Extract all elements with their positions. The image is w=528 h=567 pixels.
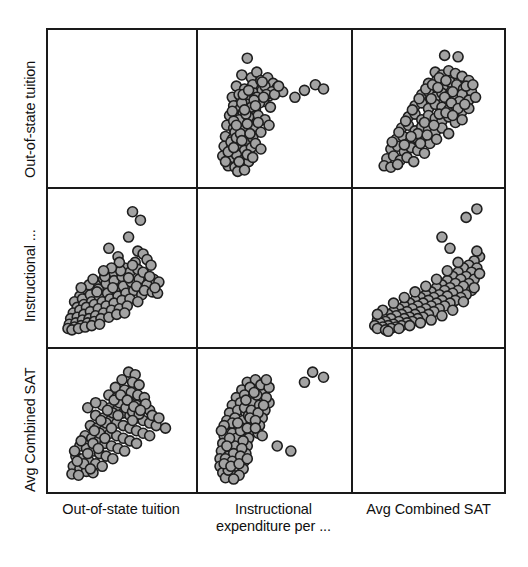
x-axis-label-col-0: Out-of-state tuition — [46, 501, 196, 518]
scatter-point — [264, 120, 274, 130]
x-axis-label-col-1-line1: Instructional — [196, 501, 351, 518]
scatter-point — [108, 454, 118, 464]
scatter-point — [245, 129, 255, 139]
y-axis-label-row-0: Out-of-state tuition — [22, 61, 38, 178]
scatter-point — [128, 207, 138, 217]
scatter-point — [469, 283, 479, 293]
scatter-point — [426, 94, 436, 104]
scatter-point — [432, 134, 442, 144]
scatter-point — [433, 83, 443, 93]
scatter-point — [405, 321, 415, 331]
scatter-point — [415, 138, 425, 148]
scatter-point — [237, 70, 247, 80]
scatter-point — [401, 116, 411, 126]
scatter-point — [383, 326, 393, 336]
scatter-point — [97, 461, 107, 471]
scatter-point — [100, 433, 110, 443]
scatter-point — [250, 101, 260, 111]
splom-cell-r2c0[interactable] — [48, 349, 196, 492]
x-axis-label-col-2-line1: Avg Combined SAT — [351, 501, 506, 518]
scatter-point — [421, 281, 431, 291]
scatter-point — [242, 454, 252, 464]
scatter-point — [448, 110, 458, 120]
scatter-point — [237, 136, 247, 146]
splom-cell-r2c1[interactable] — [198, 349, 351, 492]
scatter-point — [299, 377, 309, 387]
scatter-point — [432, 274, 442, 284]
scatter-point — [444, 129, 454, 139]
scatter-point — [120, 446, 130, 456]
splom-cell-r0c0[interactable] — [48, 30, 196, 187]
y-axis-label-row-1: Instructional ... — [22, 229, 38, 322]
scatter-point — [108, 283, 118, 293]
scatter-point — [472, 204, 482, 214]
splom-cell-r0c2[interactable] — [353, 30, 504, 187]
scatter-point — [76, 436, 86, 446]
scatter-point — [106, 423, 116, 433]
scatter-point — [91, 398, 101, 408]
scatter-point — [257, 77, 267, 87]
scatter-point — [134, 380, 144, 390]
scatter-point — [248, 152, 258, 162]
scatter-point — [274, 81, 284, 91]
scatter-point — [415, 318, 425, 328]
scatter-point — [103, 405, 113, 415]
scatter-point — [372, 309, 382, 319]
scatter-point — [234, 157, 244, 167]
scatter-point — [131, 438, 141, 448]
scatterplot-matrix-figure: Out-of-state tuition Instructional ... A… — [0, 0, 528, 567]
scatter-point — [257, 431, 267, 441]
scatter-point — [229, 143, 239, 153]
scatter-point — [319, 84, 329, 94]
scatter-point — [453, 257, 463, 267]
scatter-point — [96, 416, 106, 426]
scatter-point — [457, 115, 467, 125]
scatter-point — [244, 85, 254, 95]
scatter-point — [272, 441, 282, 451]
splom-cell-r1c1[interactable] — [198, 189, 351, 347]
splom-cell-r1c2[interactable] — [353, 189, 504, 347]
scatter-point — [440, 50, 450, 60]
scatter-point — [124, 232, 134, 242]
scatter-point — [419, 117, 429, 127]
scatter-point — [85, 464, 95, 474]
scatter-point — [445, 243, 455, 253]
scatter-point — [145, 271, 155, 281]
splom-cell-r0c1[interactable] — [198, 30, 351, 187]
scatter-point — [399, 140, 409, 150]
scatter-point — [407, 105, 417, 115]
scatter-point — [410, 287, 420, 297]
scatter-point — [227, 106, 237, 116]
scatter-point — [240, 105, 250, 115]
scatter-point — [72, 456, 82, 466]
scatter-point — [422, 130, 432, 140]
splom-cell-r1c0[interactable] — [48, 189, 196, 347]
scatter-point — [409, 157, 419, 167]
scatter-point — [89, 426, 99, 436]
scatter-point — [460, 99, 470, 109]
scatter-point — [286, 446, 296, 456]
scatter-point — [113, 410, 123, 420]
scatter-point — [437, 232, 447, 242]
scatter-point — [389, 298, 399, 308]
scatter-point — [290, 92, 300, 102]
scatter-point — [76, 283, 86, 293]
scatter-point — [128, 260, 138, 270]
scatter-point — [426, 315, 436, 325]
scatter-point — [233, 418, 243, 428]
scatter-point — [253, 117, 263, 127]
scatter-point — [133, 297, 143, 307]
scatter-point — [93, 444, 103, 454]
x-axis-label-col-0-line1: Out-of-state tuition — [46, 501, 196, 518]
scatter-point — [458, 297, 468, 307]
scatter-point — [393, 159, 403, 169]
scatter-point — [216, 426, 226, 436]
scatter-point — [135, 405, 145, 415]
splom-cell-r2c2[interactable] — [353, 349, 504, 492]
scatter-point — [471, 92, 481, 102]
scatter-point — [231, 120, 241, 130]
scatter-point — [88, 274, 98, 284]
scatter-point — [319, 372, 329, 382]
scatter-point — [242, 53, 252, 63]
x-axis-label-col-1: Instructional expenditure per ... — [196, 501, 351, 535]
